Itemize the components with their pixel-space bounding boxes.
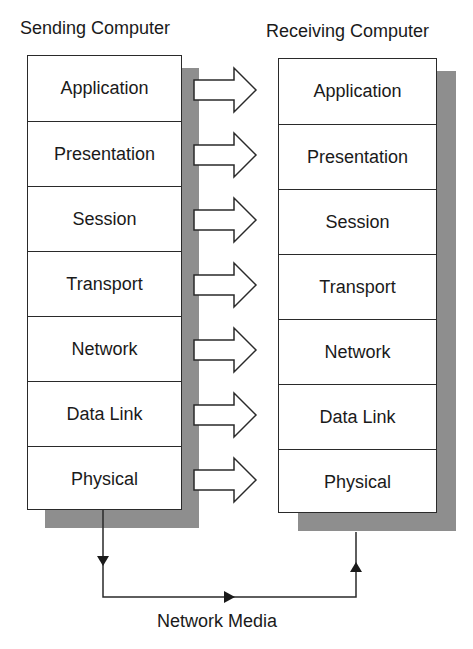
network-media-path (103, 510, 356, 597)
peer-arrow-icon (194, 133, 256, 177)
arrow-up-icon (350, 562, 362, 572)
diagram-connectors (0, 0, 473, 649)
peer-arrow-icon (194, 68, 256, 112)
peer-arrow-icon (194, 393, 256, 437)
peer-arrow-icon (194, 263, 256, 307)
arrow-down-icon (97, 556, 109, 566)
peer-arrow-icon (194, 458, 256, 502)
peer-arrows (194, 68, 256, 502)
network-media-label: Network Media (157, 611, 277, 632)
peer-arrow-icon (194, 328, 256, 372)
arrow-right-icon (224, 591, 235, 603)
peer-arrow-icon (194, 198, 256, 242)
